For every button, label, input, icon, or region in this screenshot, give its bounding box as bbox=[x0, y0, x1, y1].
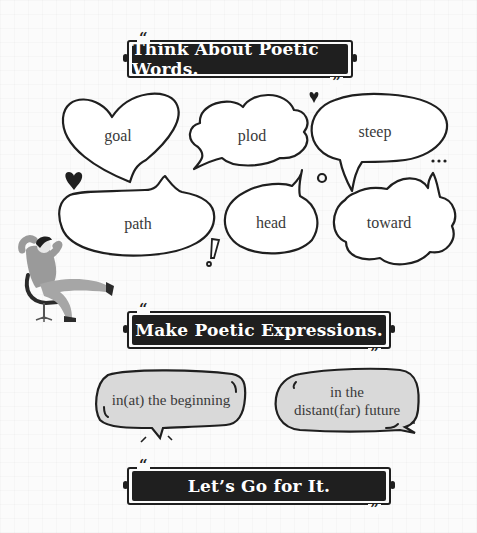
open-quote-icon: “ bbox=[137, 460, 150, 470]
word-label-path: path bbox=[124, 215, 152, 233]
oval-bubble bbox=[312, 94, 447, 191]
word-label-head: head bbox=[256, 214, 286, 232]
word-label-toward: toward bbox=[367, 214, 411, 232]
close-quote-icon: ” bbox=[368, 348, 381, 358]
open-quote-icon: “ bbox=[137, 304, 150, 314]
exclamation-icon bbox=[207, 239, 219, 266]
heart-icon bbox=[310, 92, 319, 103]
bracket-left-icon bbox=[123, 325, 128, 333]
word-label-plod: plod bbox=[238, 127, 266, 145]
section-banner-go: Let’s Go for It. “ ” bbox=[127, 467, 391, 505]
banner-plate: Make Poetic Expressions. bbox=[132, 315, 386, 345]
expression-text-future: in the distant(far) future bbox=[294, 383, 400, 419]
circle-icon bbox=[318, 174, 326, 182]
bracket-left-icon bbox=[123, 481, 128, 489]
ellipsis-icon bbox=[431, 159, 446, 162]
word-bubbles-artwork bbox=[0, 0, 477, 533]
oval-bubble bbox=[225, 170, 318, 253]
word-label-steep: steep bbox=[359, 123, 392, 141]
close-quote-icon: ” bbox=[368, 504, 381, 514]
bracket-right-icon bbox=[390, 325, 395, 333]
section-banner-expressions: Make Poetic Expressions. “ ” bbox=[127, 311, 391, 349]
expression-text-beginning: in(at) the beginning bbox=[112, 391, 230, 409]
section-title: Let’s Go for It. bbox=[188, 476, 330, 496]
section-title: Make Poetic Expressions. bbox=[135, 320, 383, 340]
expression-line: distant(far) future bbox=[294, 401, 400, 419]
banner-plate: Let’s Go for It. bbox=[132, 471, 386, 501]
word-label-goal: goal bbox=[104, 127, 132, 145]
heart-icon bbox=[65, 172, 82, 190]
expression-line: in the bbox=[294, 383, 400, 401]
bracket-right-icon bbox=[390, 481, 395, 489]
